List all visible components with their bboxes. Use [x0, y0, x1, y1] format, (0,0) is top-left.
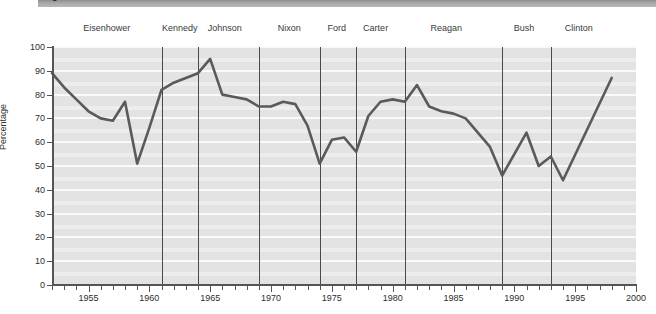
y-axis-tick-label: 0 [20, 281, 45, 290]
x-axis-tick [52, 286, 53, 290]
x-axis-tick [478, 286, 479, 290]
x-axis-tick-label: 1975 [322, 293, 342, 303]
x-axis-tick [271, 286, 272, 292]
x-axis-tick [539, 286, 540, 290]
x-axis-tick [247, 286, 248, 290]
x-axis-tick-label: 1990 [504, 293, 524, 303]
x-axis-tick [368, 286, 369, 290]
y-axis-tick [47, 142, 52, 143]
y-axis-tick [47, 166, 52, 167]
president-label-kennedy: Kennedy [162, 22, 198, 34]
president-label-clinton: Clinton [565, 22, 593, 34]
x-axis-tick-label: 1995 [565, 293, 585, 303]
y-axis-tick [47, 71, 52, 72]
president-label-carter: Carter [363, 22, 388, 34]
x-axis-tick [636, 286, 637, 292]
x-axis-tick [113, 286, 114, 290]
x-axis-tick [600, 286, 601, 290]
y-axis-line [52, 46, 54, 286]
x-axis-tick [149, 286, 150, 292]
x-axis-tick [514, 286, 515, 292]
x-axis-tick [222, 286, 223, 290]
y-axis-tick-label: 100 [20, 43, 45, 52]
y-axis-tick-label: 20 [20, 233, 45, 242]
x-axis-tick [490, 286, 491, 290]
x-axis-tick [502, 286, 503, 290]
x-axis-tick [101, 286, 102, 290]
y-axis-tick [47, 118, 52, 119]
x-axis-tick [308, 286, 309, 290]
y-axis-tick-label: 40 [20, 186, 45, 195]
x-axis-tick-label: 1955 [78, 293, 98, 303]
x-axis-tick-label: 1970 [261, 293, 281, 303]
x-axis-tick-label: 1985 [443, 293, 463, 303]
x-axis-tick [466, 286, 467, 290]
figure-caption-band: Figure [38, 0, 656, 7]
president-label-reagan: Reagan [430, 22, 462, 34]
x-axis-tick [356, 286, 357, 290]
x-axis-tick [320, 286, 321, 290]
x-axis-tick [381, 286, 382, 290]
x-axis-tick [405, 286, 406, 290]
y-axis-title: Percentage [0, 104, 8, 150]
x-axis-tick [563, 286, 564, 290]
y-axis-tick [47, 190, 52, 191]
x-axis-tick [393, 286, 394, 292]
x-axis-tick [186, 286, 187, 290]
president-label-row: EisenhowerKennedyJohnsonNixonFordCarterR… [0, 22, 656, 38]
x-axis-tick-label: 1965 [200, 293, 220, 303]
president-label-eisenhower: Eisenhower [83, 22, 130, 34]
x-axis-tick [235, 286, 236, 290]
y-axis-tick-label: 50 [20, 162, 45, 171]
x-axis-tick [162, 286, 163, 290]
y-axis-tick [47, 237, 52, 238]
x-axis-tick [125, 286, 126, 290]
x-axis-tick [624, 286, 625, 290]
y-axis-tick [47, 95, 52, 96]
x-axis-tick-label: 1960 [139, 293, 159, 303]
x-axis-tick-label: 1980 [383, 293, 403, 303]
y-axis-tick-label: 30 [20, 210, 45, 219]
x-axis-tick [527, 286, 528, 290]
x-axis-tick [64, 286, 65, 290]
x-axis-tick [332, 286, 333, 292]
y-axis-tick-label: 80 [20, 91, 45, 100]
y-axis-tick [47, 214, 52, 215]
x-axis-tick [429, 286, 430, 290]
x-axis-tick [259, 286, 260, 290]
x-axis-tick [198, 286, 199, 290]
x-axis-tick [295, 286, 296, 290]
x-axis-tick [575, 286, 576, 292]
y-axis-tick-label: 70 [20, 114, 45, 123]
y-axis-tick [47, 47, 52, 48]
x-axis-tick [587, 286, 588, 290]
x-axis-tick [174, 286, 175, 290]
x-axis-tick [612, 286, 613, 290]
x-axis-tick [441, 286, 442, 290]
x-axis-tick [551, 286, 552, 290]
x-axis-tick [89, 286, 90, 292]
x-axis-tick [210, 286, 211, 292]
x-axis-tick [417, 286, 418, 290]
x-axis-tick [344, 286, 345, 290]
x-axis-tick-label: 2000 [626, 293, 646, 303]
president-label-ford: Ford [327, 22, 346, 34]
president-label-bush: Bush [514, 22, 535, 34]
president-label-johnson: Johnson [208, 22, 242, 34]
x-axis-tick [76, 286, 77, 290]
y-axis-tick-label: 10 [20, 257, 45, 266]
figure-caption-text: Figure [44, 0, 72, 1]
president-label-nixon: Nixon [278, 22, 301, 34]
figure-root: Figure EisenhowerKennedyJohnsonNixonFord… [0, 0, 656, 314]
x-axis-tick [454, 286, 455, 292]
line-series-path [52, 59, 612, 180]
y-axis-tick [47, 261, 52, 262]
y-axis-tick-label: 90 [20, 67, 45, 76]
y-axis-tick-label: 60 [20, 138, 45, 147]
x-axis-tick [283, 286, 284, 290]
line-series-svg [52, 47, 636, 285]
x-axis-tick [137, 286, 138, 290]
plot-area [52, 47, 636, 285]
